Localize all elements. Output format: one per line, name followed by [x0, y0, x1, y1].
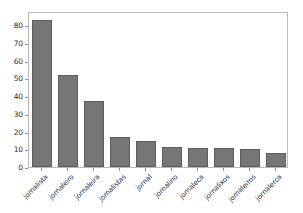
- bar: [266, 153, 287, 167]
- y-axis-tick-label: 20: [3, 129, 23, 137]
- y-axis-tick-label: 80: [3, 22, 23, 30]
- y-axis-tick-label: 30: [3, 111, 23, 119]
- plot-area: [28, 12, 288, 168]
- bar: [214, 148, 235, 167]
- x-axis-tick-mark: [223, 168, 224, 171]
- bar: [162, 147, 183, 167]
- y-axis-tick-mark: [25, 168, 28, 169]
- x-axis-tick-mark: [93, 168, 94, 171]
- x-axis-tick-mark: [197, 168, 198, 171]
- y-axis-tick-label: 40: [3, 93, 23, 101]
- bar: [188, 148, 209, 167]
- y-axis-tick-label: 50: [3, 75, 23, 83]
- x-axis-tick-mark: [41, 168, 42, 171]
- bar: [240, 149, 261, 167]
- y-axis-tick-label: 60: [3, 58, 23, 66]
- x-axis-tick-mark: [249, 168, 250, 171]
- bar: [58, 75, 79, 167]
- y-axis-tick-label: 10: [3, 146, 23, 154]
- x-axis-tick-mark: [67, 168, 68, 171]
- x-axis-tick-mark: [119, 168, 120, 171]
- x-axis-tick-mark: [275, 168, 276, 171]
- x-axis-tick-mark: [171, 168, 172, 171]
- y-axis-tick-label: 70: [3, 40, 23, 48]
- bar: [84, 101, 105, 167]
- y-axis-tick-label: 0: [3, 164, 23, 172]
- bar: [32, 20, 53, 167]
- bar-chart-figure: 01020304050607080 jornalistajornaleirojo…: [0, 0, 303, 213]
- bar: [110, 137, 131, 167]
- x-axis-tick-mark: [145, 168, 146, 171]
- bar: [136, 141, 157, 167]
